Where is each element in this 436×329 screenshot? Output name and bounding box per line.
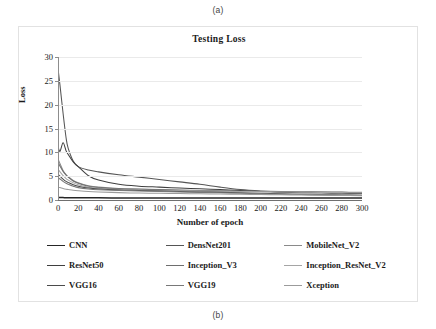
- legend-item[interactable]: VGG16: [41, 280, 160, 290]
- x-axis-tick-label: 220: [275, 203, 288, 213]
- y-axis-tick-label: 20: [45, 100, 54, 110]
- x-axis-tick-label: 120: [173, 203, 186, 213]
- legend-item[interactable]: ResNet50: [41, 260, 160, 270]
- legend-item-label: CNN: [69, 240, 87, 250]
- chart-legend: CNNDensNet201MobileNet_V2ResNet50Incepti…: [41, 235, 397, 295]
- x-axis-tick-label: 200: [254, 203, 267, 213]
- plot-area-wrapper: Loss 051015202530 0204060801001201401601…: [19, 51, 419, 226]
- gridline: [58, 176, 362, 177]
- y-axis-tick-label: 30: [45, 52, 54, 62]
- x-axis-tick-label: 20: [74, 203, 83, 213]
- x-axis-line: [58, 200, 362, 201]
- legend-item[interactable]: CNN: [41, 240, 160, 250]
- legend-item[interactable]: Inception_V3: [160, 260, 279, 270]
- x-axis-tick-label: 100: [153, 203, 166, 213]
- legend-line-swatch: [166, 285, 184, 286]
- y-axis-tick-label: 15: [45, 124, 54, 134]
- legend-line-swatch: [284, 285, 302, 286]
- gridline: [58, 105, 362, 106]
- legend-item-label: Inception_V3: [188, 260, 237, 270]
- legend-item-label: DensNet201: [188, 240, 231, 250]
- x-axis-label: Number of epoch: [58, 217, 362, 227]
- gridline: [58, 129, 362, 130]
- legend-item[interactable]: Inception_ResNet_V2: [278, 260, 397, 270]
- x-axis-tick-label: 180: [234, 203, 247, 213]
- figure-caption-b: (b): [0, 310, 436, 320]
- legend-line-swatch: [284, 245, 302, 246]
- legend-item[interactable]: VGG19: [160, 280, 279, 290]
- gridline: [58, 57, 362, 58]
- y-axis-tick-label: 0: [49, 195, 53, 205]
- gridline: [58, 81, 362, 82]
- y-axis-tick-label: 10: [45, 147, 54, 157]
- chart-container: Testing Loss Loss 051015202530 020406080…: [18, 26, 418, 302]
- legend-item-label: ResNet50: [69, 260, 103, 270]
- x-axis-tick-label: 80: [135, 203, 144, 213]
- legend-line-swatch: [47, 245, 65, 246]
- plot-area: [58, 57, 362, 200]
- y-axis-tick-label: 5: [49, 171, 53, 181]
- x-axis-tick-label: 0: [56, 203, 60, 213]
- chart-title: Testing Loss: [19, 34, 419, 44]
- x-axis-tick-labels: 0204060801001201401601802002202402602803…: [58, 203, 362, 217]
- legend-line-swatch: [166, 265, 184, 266]
- legend-item-label: MobileNet_V2: [306, 240, 359, 250]
- figure-caption-a: (a): [0, 5, 436, 15]
- legend-item-label: VGG19: [188, 280, 216, 290]
- gridline: [58, 152, 362, 153]
- legend-item[interactable]: DensNet201: [160, 240, 279, 250]
- gridlines: [58, 57, 362, 200]
- y-axis-line: [58, 57, 59, 200]
- x-axis-tick-label: 40: [94, 203, 103, 213]
- x-axis-tick-label: 160: [214, 203, 227, 213]
- legend-item-label: Xception: [306, 280, 339, 290]
- legend-item-label: VGG16: [69, 280, 97, 290]
- legend-line-swatch: [166, 245, 184, 246]
- legend-line-swatch: [47, 285, 65, 286]
- x-axis-tick-label: 260: [315, 203, 328, 213]
- y-axis-tick-labels: 051015202530: [19, 51, 58, 206]
- legend-line-swatch: [47, 265, 65, 266]
- x-axis-tick-label: 300: [356, 203, 369, 213]
- legend-item-label: Inception_ResNet_V2: [306, 260, 385, 270]
- legend-line-swatch: [284, 265, 302, 266]
- x-axis-tick-label: 280: [335, 203, 348, 213]
- x-axis-tick-label: 240: [295, 203, 308, 213]
- legend-item[interactable]: Xception: [278, 280, 397, 290]
- y-axis-tick-label: 25: [45, 76, 54, 86]
- x-axis-tick-label: 60: [115, 203, 124, 213]
- x-axis-tick-label: 140: [193, 203, 206, 213]
- legend-item[interactable]: MobileNet_V2: [278, 240, 397, 250]
